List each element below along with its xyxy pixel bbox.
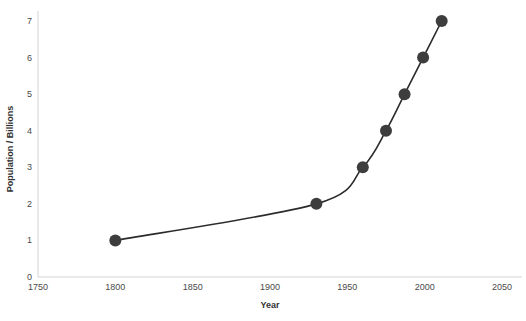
data-point-marker [109,234,121,246]
data-point-marker [399,88,411,100]
y-tick-label-2: 2 [27,199,32,208]
y-tick-label-6: 6 [27,53,32,62]
y-tick-label-3: 3 [27,163,32,172]
data-point-marker [310,198,322,210]
population-chart: 1750180018501900195020002050 01234567 Ye… [0,0,526,321]
x-tick-label-1950: 1950 [337,283,357,292]
x-tick-label-2000: 2000 [415,283,435,292]
data-point-marker [380,125,392,137]
y-tick-label-4: 4 [27,126,32,135]
x-tick-label-1900: 1900 [260,283,280,292]
data-point-marker [357,161,369,173]
data-point-marker [436,15,448,27]
x-tick-label-2050: 2050 [492,283,512,292]
x-tick-label-1800: 1800 [105,283,125,292]
series-curves [115,21,441,240]
x-tick-label-1850: 1850 [183,283,203,292]
data-point-marker [417,52,429,64]
x-tick-label-1750: 1750 [28,283,48,292]
x-axis-title: Year [260,301,279,310]
series-curve-0 [115,21,441,240]
y-axis-title: Population / Billions [6,106,15,193]
y-tick-label-1: 1 [27,236,32,245]
y-tick-label-0: 0 [27,273,32,282]
y-tick-label-7: 7 [27,17,32,26]
chart-plot-area [0,0,526,321]
y-tick-label-5: 5 [27,90,32,99]
